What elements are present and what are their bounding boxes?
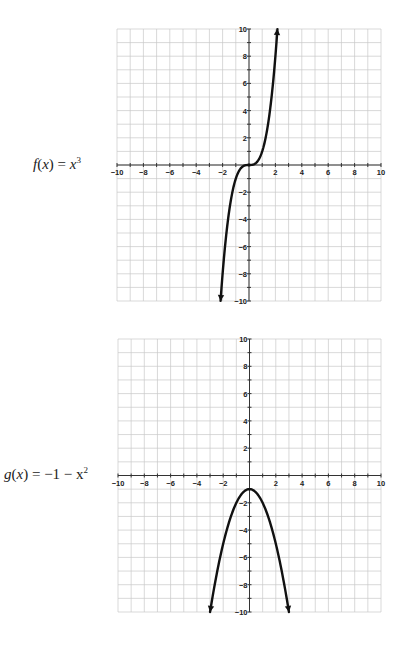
x-tick-label: −2 [218,168,227,177]
x-tick-label: −6 [166,479,175,488]
y-tick-label: 6 [243,79,247,88]
y-tick-label: 10 [239,335,247,344]
x-tick-label: −10 [111,168,124,177]
x-tick-label: 4 [300,479,305,488]
x-tick-label: 8 [353,168,357,177]
x-tick-label: −8 [139,168,148,177]
x-tick-label: 6 [326,479,330,488]
y-tick-label: 6 [243,390,247,399]
y-tick-label: 8 [243,52,247,61]
arrowhead [274,29,280,35]
x-tick-label: 2 [273,168,277,177]
x-tick-label: 2 [274,479,278,488]
x-tick-label: −2 [219,479,228,488]
y-tick-label: −4 [239,526,248,535]
y-tick-label: −8 [239,581,248,590]
x-tick-label: −6 [166,168,175,177]
y-tick-label: −2 [239,499,248,508]
chart-0: −10−8−6−4−2246810108642−2−4−6−8−10 [111,25,386,306]
chart-1: −10−8−6−4−2246810108642−2−4−6−8−10 [112,335,386,617]
y-tick-label: 10 [239,25,247,34]
y-tick-label: −2 [238,188,247,197]
y-tick-label: 2 [243,444,247,453]
y-tick-label: −10 [235,608,248,617]
arrowhead [218,295,224,301]
x-tick-label: −8 [140,479,149,488]
y-tick-label: 2 [243,134,247,143]
x-tick-label: 10 [377,168,385,177]
y-tick-label: −8 [238,270,247,279]
x-tick-label: 4 [300,168,305,177]
y-tick-label: 8 [243,362,247,371]
x-tick-label: −10 [112,479,125,488]
x-tick-label: −4 [192,168,201,177]
y-tick-label: −6 [238,243,247,252]
x-tick-label: 10 [377,479,385,488]
y-tick-label: −6 [239,553,248,562]
x-tick-label: 8 [353,479,357,488]
y-tick-label: −4 [238,215,247,224]
y-tick-label: −10 [234,297,247,306]
x-tick-label: −4 [193,479,202,488]
x-tick-label: 6 [326,168,330,177]
plots-canvas: −10−8−6−4−2246810108642−2−4−6−8−10−10−8−… [0,0,412,650]
